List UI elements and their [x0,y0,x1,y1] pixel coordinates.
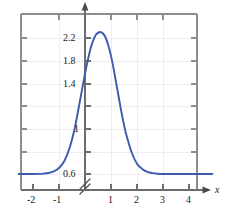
x-tick-label-minus-1: -1 [53,195,61,205]
y-axis-arrowhead [82,2,89,11]
data-curve [19,32,213,174]
y-tick-label-2-2: 2.2 [63,33,76,43]
y-tick-label-1-4: 1.4 [63,79,76,89]
x-axis-label: x [215,185,219,195]
x-axis-ticks [33,184,189,190]
gridlines [21,14,197,190]
x-tick-label-1: 1 [108,195,113,205]
top-frame-ticks [59,14,163,20]
y-tick-label-1-8: 1.8 [63,56,76,66]
right-frame-ticks [191,38,197,174]
plot-canvas [0,0,227,215]
y-tick-label-1: 1 [74,124,79,134]
y-axis [82,2,89,190]
x-axis [21,187,211,194]
x-tick-label-2: 2 [134,195,139,205]
x-axis-arrowhead [203,187,212,194]
function-graph-figure: 2.2 1.8 1.4 1 0.6 -2 -1 1 2 3 4 x [0,0,227,215]
x-tick-label-minus-2: -2 [27,195,35,205]
x-tick-label-3: 3 [160,195,165,205]
plot-frame [21,14,197,190]
y-tick-label-0-6: 0.6 [63,169,76,179]
x-tick-label-4: 4 [186,195,191,205]
left-frame-ticks [21,38,27,174]
